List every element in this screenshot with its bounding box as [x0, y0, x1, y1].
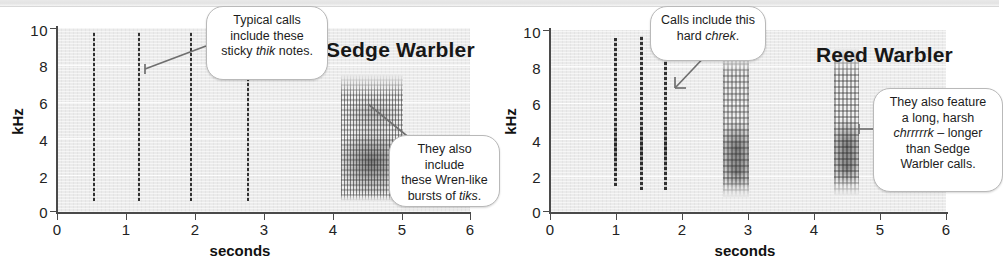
callout-chrrrrrk-call: They also feature a long, harsh chrrrrrk…: [873, 88, 1003, 192]
panel-title-sedge-warbler: Sedge Warbler: [326, 38, 475, 62]
spectrogram-mark-thik-1: [93, 32, 95, 201]
callout-line: They also include: [400, 142, 489, 173]
y-tick-10: [543, 30, 549, 31]
x-tick-5: [880, 213, 881, 220]
y-tick-label-8: 8: [511, 61, 541, 76]
callout-tiks-bursts: They also include these Wren-like bursts…: [389, 135, 500, 207]
spectrogram-mark-chrrrrrk-1: [723, 55, 749, 197]
y-tick-0: [50, 211, 56, 212]
x-tick-label-0: 0: [538, 222, 562, 237]
y-axis-title: kHz: [9, 92, 26, 152]
x-tick-label-0: 0: [45, 222, 69, 237]
callout-line: than Sedge: [884, 142, 992, 158]
y-tick-label-8: 8: [18, 59, 48, 74]
x-tick-label-1: 1: [114, 222, 138, 237]
spectrogram-mark-chrek-2: [640, 36, 643, 190]
callout-line: include these: [217, 29, 317, 45]
y-axis-title: kHz: [502, 92, 519, 152]
spectrogram-mark-chrrrrrk-2: [834, 48, 859, 196]
callout-chrek-call: Calls include this hard chrek.: [650, 6, 766, 61]
x-tick-6: [470, 213, 471, 220]
x-tick-label-3: 3: [252, 222, 276, 237]
callout-line: Warbler calls.: [884, 157, 992, 173]
callout-line: hard chrek.: [661, 29, 755, 45]
x-tick-6: [946, 213, 947, 220]
x-tick-4: [814, 213, 815, 220]
y-tick-label-0: 0: [18, 205, 48, 220]
x-tick-label-6: 6: [458, 222, 482, 237]
x-tick-label-4: 4: [802, 222, 826, 237]
x-tick-label-5: 5: [390, 222, 414, 237]
y-tick-label-10: 10: [511, 25, 541, 40]
x-tick-0: [57, 213, 58, 220]
y-tick-0: [543, 211, 549, 212]
x-axis-title: seconds: [685, 242, 805, 259]
y-tick-label-2: 2: [18, 170, 48, 185]
x-tick-1: [126, 213, 127, 220]
callout-line: Calls include this: [661, 13, 755, 29]
x-tick-label-2: 2: [183, 222, 207, 237]
callout-line: a long, harsh: [884, 111, 992, 127]
y-axis-line: [56, 26, 58, 214]
spectrogram-mark-chrek-1: [614, 38, 617, 186]
callout-line: bursts of tiks.: [400, 189, 489, 205]
x-tick-4: [333, 213, 334, 220]
x-tick-3: [264, 213, 265, 220]
callout-line: these Wren-like: [400, 173, 489, 189]
panel-reed-warbler: 10 8 6 4 2 0 0 1 2 3 4 5 6 kHz seconds R…: [499, 0, 999, 268]
x-tick-label-2: 2: [670, 222, 694, 237]
x-tick-label-1: 1: [604, 222, 628, 237]
callout-line: They also feature: [884, 95, 992, 111]
x-tick-3: [748, 213, 749, 220]
y-tick-label-10: 10: [18, 23, 48, 38]
callout-line: Typical calls: [217, 13, 317, 29]
x-tick-label-6: 6: [934, 222, 958, 237]
callout-line: chrrrrrk – longer: [884, 126, 992, 142]
y-tick-label-2: 2: [511, 170, 541, 185]
y-axis-line: [549, 28, 551, 214]
x-tick-1: [616, 213, 617, 220]
x-tick-2: [682, 213, 683, 220]
x-tick-label-3: 3: [736, 222, 760, 237]
callout-thik-notes: Typical calls include these sticky thik …: [206, 6, 328, 80]
x-tick-5: [402, 213, 403, 220]
x-axis-title: seconds: [180, 242, 300, 259]
x-tick-2: [195, 213, 196, 220]
callout-line: sticky thik notes.: [217, 44, 317, 60]
y-tick-10: [50, 28, 56, 29]
x-tick-label-5: 5: [868, 222, 892, 237]
panel-sedge-warbler: 10 8 6 4 2 0 0 1 2 3 4 5 6 kHz seconds S…: [0, 0, 500, 268]
y-tick-label-0: 0: [511, 205, 541, 220]
panel-title-reed-warbler: Reed Warbler: [816, 43, 953, 67]
x-tick-0: [550, 213, 551, 220]
x-tick-label-4: 4: [321, 222, 345, 237]
